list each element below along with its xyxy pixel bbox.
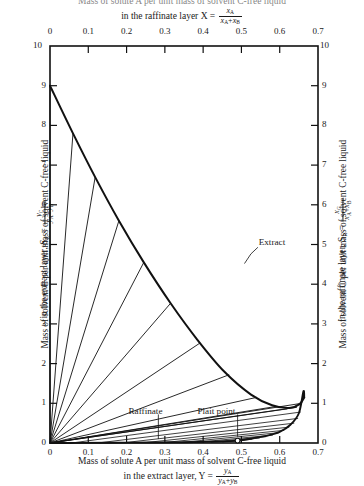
- tie-line: [50, 221, 119, 443]
- plot-border: [50, 46, 318, 443]
- tie-line: [50, 177, 95, 443]
- tie-lines: [50, 86, 302, 443]
- annotation-leaders: [158, 247, 258, 439]
- figure-root: Mass of solute A per unit mass of solven…: [0, 0, 364, 486]
- tie-line: [50, 343, 200, 443]
- plot-frame: [50, 46, 318, 443]
- binodal-upper-branch: [50, 86, 304, 408]
- plot-canvas: [0, 0, 364, 486]
- plait-point-marker: [235, 438, 240, 443]
- plait-point-circle: [235, 438, 240, 443]
- tie-line: [50, 262, 144, 443]
- axis-ticks: [50, 46, 318, 443]
- tie-line: [50, 375, 229, 443]
- tie-line: [50, 303, 171, 443]
- tie-line: [50, 133, 73, 443]
- binodal-solubility-curve: [50, 86, 304, 443]
- extract-leader: [244, 247, 257, 263]
